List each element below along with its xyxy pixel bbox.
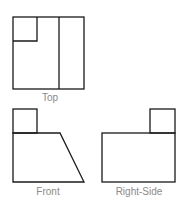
- right-side-view-base: [102, 133, 175, 182]
- front-view-trapezoid: [13, 133, 84, 182]
- top-view-label: Top: [42, 92, 59, 103]
- top-view-outline: [13, 17, 84, 89]
- right-side-view-top-square: [150, 109, 175, 133]
- top-view-corner-square: [13, 17, 37, 41]
- orthographic-views-diagram: Top Front Right-Side: [0, 0, 184, 204]
- front-view-top-square: [13, 109, 37, 133]
- front-view-label: Front: [36, 186, 60, 197]
- right-side-view: Right-Side: [102, 109, 175, 197]
- right-side-view-label: Right-Side: [116, 186, 163, 197]
- top-view: Top: [13, 17, 84, 103]
- front-view: Front: [13, 109, 84, 197]
